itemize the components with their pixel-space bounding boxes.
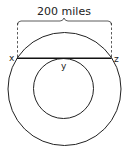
curly-brace xyxy=(18,18,112,25)
point-z-label: z xyxy=(114,54,119,64)
measurement-bracket xyxy=(18,18,112,57)
point-y-label: y xyxy=(61,61,67,71)
point-x-label: x xyxy=(9,53,15,63)
distance-label: 200 miles xyxy=(37,5,91,18)
outer-circle xyxy=(8,33,121,146)
concentric-circles-diagram: 200 miles x y z xyxy=(0,0,129,157)
